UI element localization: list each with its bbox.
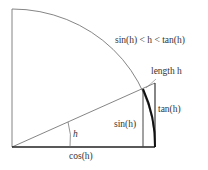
radius-line	[12, 83, 155, 147]
diagram-svg	[0, 0, 208, 170]
inequality-label: sin(h) < h < tan(h)	[115, 36, 185, 46]
arc-length-h	[143, 89, 155, 147]
diagram-canvas: sin(h) < h < tan(h) length h tan(h) sin(…	[0, 0, 208, 170]
arc-length-label: length h	[151, 67, 182, 77]
sin-label: sin(h)	[114, 120, 136, 130]
cos-label: cos(h)	[69, 152, 93, 162]
tan-label: tan(h)	[158, 105, 181, 115]
angle-arc	[68, 122, 71, 147]
angle-label: h	[73, 130, 78, 140]
